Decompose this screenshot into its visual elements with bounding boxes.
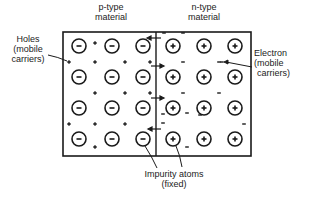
leader-lines: [48, 55, 252, 168]
acceptor-ion-icon: [136, 101, 150, 115]
hole-icon: [93, 122, 97, 126]
acceptor-ion-icon: [105, 101, 119, 115]
acceptor-ion-icon: [136, 70, 150, 84]
donor-ion-icon: [197, 70, 211, 84]
acceptor-ion-icon: [72, 132, 86, 146]
junction-box: [63, 32, 251, 156]
acceptor-ion-icon: [72, 101, 86, 115]
n-region-electrons: [161, 33, 246, 147]
n-region-ions: [166, 39, 242, 146]
acceptor-ion-icon: [105, 132, 119, 146]
donor-ion-icon: [166, 101, 180, 115]
donor-ion-icon: [197, 101, 211, 115]
acceptor-ion-icon: [136, 39, 150, 53]
hole-icon: [93, 91, 97, 95]
acceptor-ion-icon: [72, 70, 86, 84]
p-region-ions: [72, 39, 150, 146]
acceptor-ion-icon: [105, 70, 119, 84]
hole-icon: [123, 122, 127, 126]
donor-ion-icon: [228, 70, 242, 84]
donor-ion-icon: [166, 39, 180, 53]
acceptor-ion-icon: [136, 132, 150, 146]
donor-ion-icon: [197, 39, 211, 53]
diagram-canvas: [0, 0, 309, 203]
donor-ion-icon: [228, 132, 242, 146]
hole-icon: [93, 145, 97, 149]
acceptor-ion-icon: [72, 39, 86, 53]
hole-icon: [148, 60, 152, 64]
donor-ion-icon: [166, 70, 180, 84]
hole-icon: [123, 60, 127, 64]
hole-icon: [148, 91, 152, 95]
donor-ion-icon: [228, 39, 242, 53]
donor-ion-icon: [197, 132, 211, 146]
donor-ion-icon: [228, 101, 242, 115]
acceptor-ion-icon: [105, 39, 119, 53]
hole-icon: [93, 41, 97, 45]
hole-icon: [67, 60, 71, 64]
donor-ion-icon: [166, 132, 180, 146]
hole-icon: [123, 91, 127, 95]
hole-icon: [93, 60, 97, 64]
hole-icon: [67, 122, 71, 126]
